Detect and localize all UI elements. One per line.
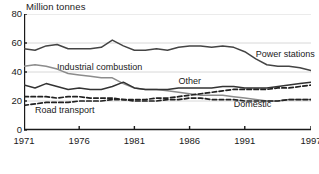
y-axis-title: Million tonnes: [26, 1, 86, 12]
y-tick-60: 60: [2, 37, 22, 48]
figure-caption: [14, 167, 314, 174]
series-line-other: [24, 82, 311, 89]
y-tick-40: 40: [2, 66, 22, 77]
plot-area: [24, 14, 311, 142]
y-tick-80: 80: [2, 8, 22, 19]
y-tick-20: 20: [2, 95, 22, 106]
line-chart-svg: [24, 14, 311, 142]
data-series: [24, 40, 311, 105]
series-line-power-stations: [24, 40, 311, 70]
y-tick-0: 0: [2, 124, 22, 135]
series-line-industrial-combustion: [24, 65, 311, 101]
figure: Million tonnes 020406080 197119761981198…: [0, 0, 319, 174]
